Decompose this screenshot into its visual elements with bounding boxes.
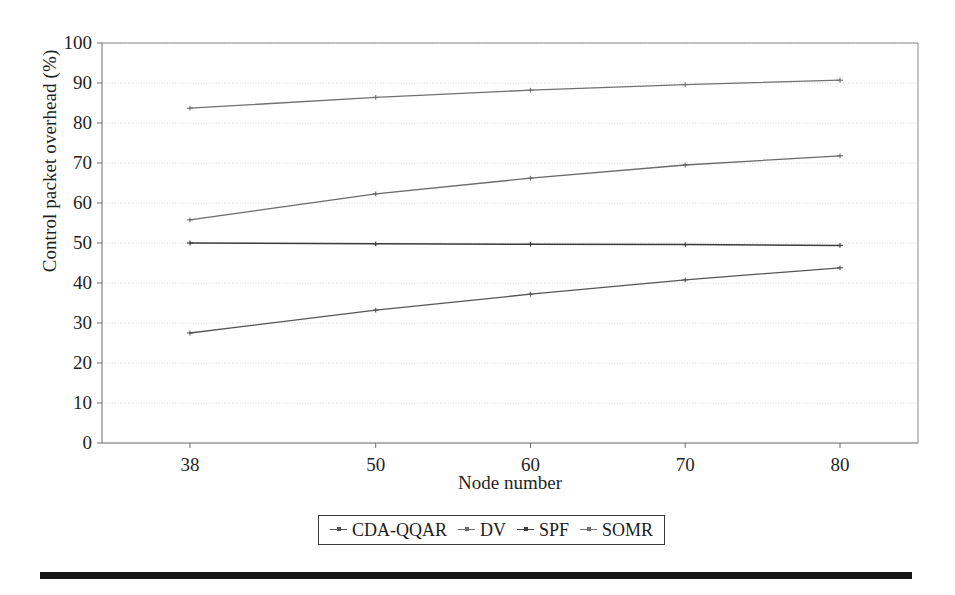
y-tick-label: 10 xyxy=(46,393,92,412)
legend-entry: SOMR xyxy=(580,520,653,541)
series-dv xyxy=(187,153,843,222)
legend-line-marker-icon xyxy=(517,525,534,535)
figure-container: Control packet overhead (%) 010203040506… xyxy=(0,0,955,595)
plot-area xyxy=(0,0,955,595)
series-line xyxy=(190,243,840,245)
legend-entry: SPF xyxy=(517,520,569,541)
legend-label: CDA-QQAR xyxy=(352,520,447,541)
y-tick-label: 20 xyxy=(46,353,92,372)
series-cda-qqar xyxy=(187,265,843,335)
legend-label: DV xyxy=(480,520,506,541)
y-tick-label: 70 xyxy=(46,153,92,172)
y-tick-label: 60 xyxy=(46,193,92,212)
y-tick-label: 50 xyxy=(46,233,92,252)
legend-line-marker-icon xyxy=(580,525,597,535)
legend-label: SOMR xyxy=(602,520,653,541)
x-axis-title: Node number xyxy=(102,472,918,494)
series-line xyxy=(190,80,840,108)
bottom-divider-rule xyxy=(40,572,912,579)
series-somr xyxy=(187,78,843,111)
chart-legend: CDA-QQARDVSPFSOMR xyxy=(318,515,665,545)
y-tick-label: 40 xyxy=(46,273,92,292)
legend-label: SPF xyxy=(539,520,569,541)
legend-entry: CDA-QQAR xyxy=(330,520,447,541)
legend-line-marker-icon xyxy=(330,525,347,535)
series-spf xyxy=(187,241,843,248)
y-tick-label: 90 xyxy=(46,73,92,92)
legend-line-marker-icon xyxy=(458,525,475,535)
legend-entry: DV xyxy=(458,520,506,541)
series-line xyxy=(190,156,840,220)
y-tick-label: 30 xyxy=(46,313,92,332)
y-tick-label: 0 xyxy=(46,433,92,452)
y-tick-label: 80 xyxy=(46,113,92,132)
y-tick-label: 100 xyxy=(46,33,92,52)
